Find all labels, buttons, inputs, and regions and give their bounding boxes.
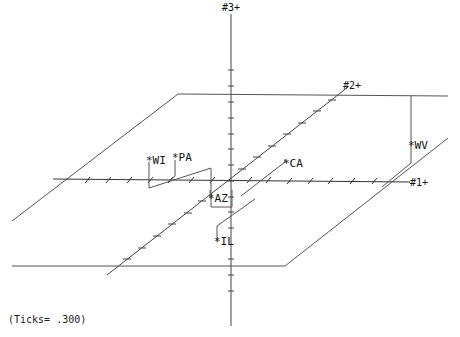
ticks-footer: (Ticks= .300) [8, 314, 86, 325]
point-label-ca: *CA [283, 158, 303, 169]
scatter-plot-3d [0, 0, 460, 337]
axis-3 [228, 14, 234, 326]
point-label-wv: *WV [408, 140, 428, 151]
point-label-wi: *WI [146, 155, 166, 166]
point-label-il: *IL [214, 236, 234, 247]
drop-lines [149, 96, 411, 242]
axis-3-label: #3+ [222, 3, 240, 13]
point-label-pa: *PA [172, 152, 192, 163]
axis-2-label: #2+ [343, 81, 361, 91]
point-label-az: *AZ [208, 193, 228, 204]
axis-1-label: #1+ [410, 178, 428, 188]
